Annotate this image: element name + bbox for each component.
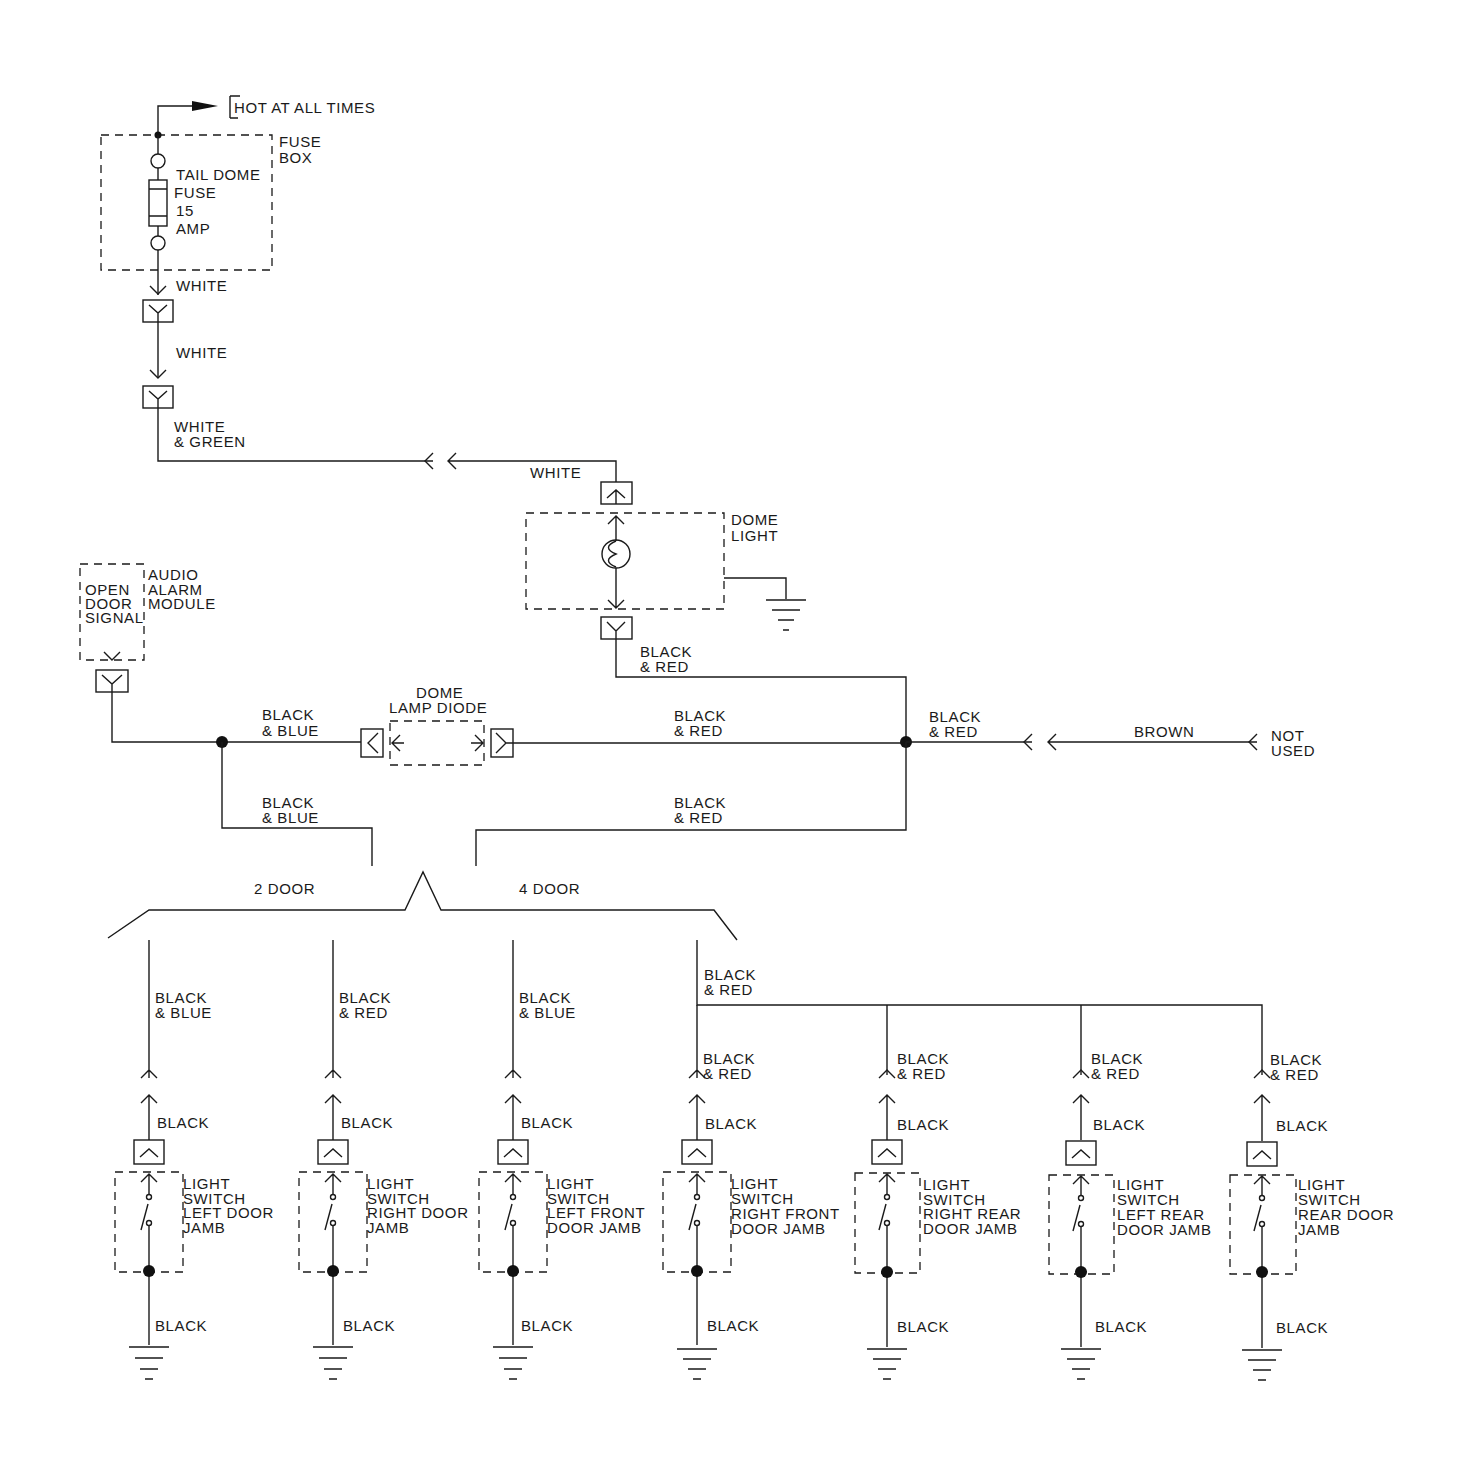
audio-alarm-module: AUDIO ALARM MODULE OPEN DOOR SIGNAL BLAC…	[80, 564, 361, 748]
svg-text:BLACK: BLACK	[262, 706, 314, 723]
connector-icon	[872, 1140, 902, 1164]
svg-text:BLACK: BLACK	[1093, 1116, 1145, 1133]
connector-icon	[1066, 1141, 1096, 1165]
svg-text:BLACK: BLACK	[1276, 1319, 1328, 1336]
switch-icon	[325, 1204, 332, 1230]
fuse-box: FUSE BOX TAIL DOME FUSE 15 AMP	[101, 132, 321, 296]
connector-icon	[134, 1140, 164, 1164]
svg-text:BLACK: BLACK	[1095, 1318, 1147, 1335]
svg-text:BLACK: BLACK	[521, 1317, 573, 1334]
svg-text:AMP: AMP	[176, 220, 210, 237]
bulb-icon	[602, 540, 630, 568]
svg-text:& GREEN: & GREEN	[174, 433, 246, 450]
svg-text:LIGHT: LIGHT	[731, 527, 778, 544]
hot-label: HOT AT ALL TIMES	[234, 99, 375, 116]
svg-text:WHITE: WHITE	[530, 464, 581, 481]
connector-icon	[498, 1140, 528, 1164]
switch-left-rear-door-jamb: BLACK & RED BLACK LIGHT SWITCH LEFT REAR…	[1049, 1050, 1212, 1379]
svg-text:& BLUE: & BLUE	[262, 722, 319, 739]
switch-icon	[505, 1204, 512, 1230]
svg-text:15: 15	[176, 202, 194, 219]
switch-left-front-door-jamb: BLACK & BLUE BLACK LIGHT SWITCH LEFT FRO…	[479, 940, 645, 1379]
svg-text:& BLUE: & BLUE	[262, 809, 319, 826]
ground-icon	[724, 578, 806, 630]
hot-at-all-times-feed: HOT AT ALL TIMES	[158, 96, 375, 135]
svg-text:& RED: & RED	[897, 1065, 946, 1082]
svg-text:BLACK: BLACK	[1276, 1117, 1328, 1134]
svg-text:& RED: & RED	[929, 723, 978, 740]
svg-text:BLACK: BLACK	[897, 1116, 949, 1133]
svg-text:& RED: & RED	[674, 809, 723, 826]
svg-text:BLACK: BLACK	[521, 1114, 573, 1131]
variant-branches: BLACK & BLUE BLACK & RED 2 DOOR 4 DOOR	[108, 742, 906, 940]
svg-text:BLACK: BLACK	[707, 1317, 759, 1334]
svg-text:& RED: & RED	[704, 981, 753, 998]
svg-text:DOOR JAMB: DOOR JAMB	[923, 1220, 1018, 1237]
white-wire-run: WHITE WHITE WHITE & GREEN WHITE	[143, 277, 616, 482]
svg-text:BLACK: BLACK	[157, 1114, 209, 1131]
svg-text:BLACK: BLACK	[897, 1318, 949, 1335]
svg-text:DOOR JAMB: DOOR JAMB	[547, 1219, 642, 1236]
ground-icon	[677, 1349, 717, 1379]
svg-text:JAMB: JAMB	[1298, 1221, 1340, 1238]
switch-right-front-door-jamb: BLACK & RED BLACK LIGHT SWITCH RIGHT FRO…	[663, 1005, 840, 1379]
svg-text:DOOR JAMB: DOOR JAMB	[1117, 1221, 1212, 1238]
switch-rear-door-jamb: BLACK & RED BLACK LIGHT SWITCH REAR DOOR…	[1230, 1051, 1394, 1380]
svg-text:& RED: & RED	[339, 1004, 388, 1021]
ground-icon	[1061, 1349, 1101, 1379]
two-door-label: 2 DOOR	[254, 880, 315, 897]
svg-text:MODULE: MODULE	[148, 595, 216, 612]
fuse-icon	[149, 135, 167, 295]
svg-text:JAMB: JAMB	[367, 1219, 409, 1236]
svg-text:JAMB: JAMB	[183, 1219, 225, 1236]
switch-icon	[1254, 1205, 1261, 1231]
ground-icon	[493, 1347, 533, 1379]
svg-text:BOX: BOX	[279, 149, 312, 166]
ground-icon	[129, 1347, 169, 1379]
svg-text:BROWN: BROWN	[1134, 723, 1195, 740]
junction-node: BLACK & RED BROWN NOT USED	[900, 708, 1315, 759]
svg-text:SIGNAL: SIGNAL	[85, 609, 144, 626]
dome-light: DOME LIGHT BLACK & RED	[526, 482, 906, 742]
four-door-label: 4 DOOR	[519, 880, 580, 897]
switch-icon	[879, 1204, 886, 1230]
switch-icon	[689, 1204, 696, 1230]
svg-text:FUSE: FUSE	[279, 133, 321, 150]
svg-text:LAMP DIODE: LAMP DIODE	[389, 699, 487, 716]
svg-text:& BLUE: & BLUE	[519, 1004, 576, 1021]
svg-text:BLACK: BLACK	[705, 1115, 757, 1132]
ground-icon	[313, 1347, 353, 1379]
connector-icon	[361, 729, 383, 757]
svg-text:DOOR JAMB: DOOR JAMB	[731, 1220, 826, 1237]
switch-right-door-jamb: BLACK & RED BLACK LIGHT SWITCH RIGHT DOO…	[299, 940, 469, 1379]
svg-text:DOME: DOME	[731, 511, 778, 528]
svg-text:BLACK: BLACK	[341, 1114, 393, 1131]
svg-text:& RED: & RED	[1270, 1066, 1319, 1083]
switch-left-door-jamb: BLACK & BLUE BLACK LIGHT SWITCH LEFT DOO…	[115, 940, 274, 1379]
svg-text:& RED: & RED	[640, 658, 689, 675]
svg-text:BLACK: BLACK	[343, 1317, 395, 1334]
svg-text:& RED: & RED	[703, 1065, 752, 1082]
svg-text:BLACK: BLACK	[155, 1317, 207, 1334]
svg-text:& RED: & RED	[1091, 1065, 1140, 1082]
svg-text:& BLUE: & BLUE	[155, 1004, 212, 1021]
ground-icon	[1242, 1350, 1282, 1380]
switch-icon	[141, 1204, 148, 1230]
switch-icon	[1073, 1205, 1080, 1231]
switch-right-rear-door-jamb: BLACK & RED BLACK LIGHT SWITCH RIGHT REA…	[855, 1050, 1021, 1379]
svg-text:WHITE: WHITE	[176, 344, 227, 361]
ground-icon	[867, 1349, 907, 1379]
svg-text:TAIL DOME: TAIL DOME	[176, 166, 261, 183]
connector-icon	[1247, 1142, 1277, 1166]
connector-icon	[318, 1140, 348, 1164]
svg-text:WHITE: WHITE	[176, 277, 227, 294]
dome-light-wiring-diagram: HOT AT ALL TIMES FUSE BOX TAIL DOME FUSE…	[0, 0, 1459, 1462]
svg-text:& RED: & RED	[674, 722, 723, 739]
svg-text:USED: USED	[1271, 742, 1315, 759]
four-door-feed-bus: BLACK & RED	[697, 940, 1262, 1075]
dome-lamp-diode: DOME LAMP DIODE BLACK & RED	[361, 684, 906, 765]
svg-text:FUSE: FUSE	[174, 184, 216, 201]
connector-icon	[682, 1140, 712, 1164]
